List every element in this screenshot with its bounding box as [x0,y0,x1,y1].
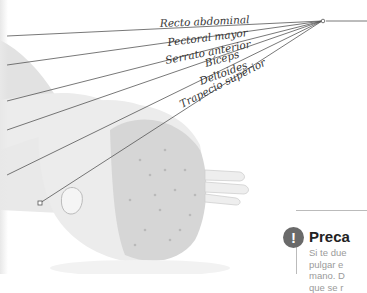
left-edge-shadow [0,0,8,274]
callout-line: pulgar e [309,259,367,271]
exclamation-icon: ! [283,227,304,248]
callout-line: que se r [309,282,367,293]
callout-line: mano. D [309,270,367,282]
pointer-origin-dot [321,19,325,23]
callout-body: Si te due pulgar e mano. D que se r [309,247,367,293]
callout-top-border [296,210,367,211]
callout-title: Preca [309,228,350,245]
pointer-end-marker [38,201,42,205]
callout-line: Si te due [309,247,367,259]
